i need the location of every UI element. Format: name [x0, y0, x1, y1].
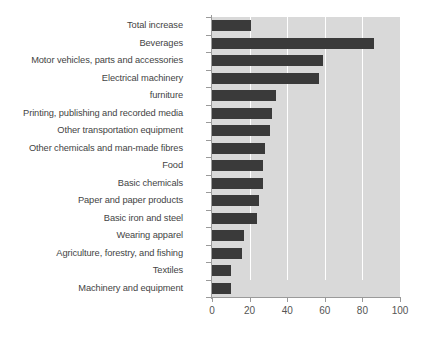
- category-label: Textiles: [153, 262, 183, 280]
- category-label: Machinery and equipment: [78, 280, 183, 298]
- x-tick-label-0: 0: [209, 305, 215, 316]
- gridline-100: [400, 0, 401, 280]
- bar-cell: [212, 122, 400, 140]
- bar-chart: 020406080100 Total increaseBeveragesMoto…: [0, 0, 424, 337]
- bar-cell: [212, 262, 400, 280]
- category-label: Other chemicals and man-made fibres: [29, 140, 183, 158]
- bar-cell: [212, 35, 400, 53]
- bar: [212, 108, 272, 119]
- category-label: Agriculture, forestry, and fishing: [56, 245, 183, 263]
- bar-row: Electrical machinery: [0, 70, 400, 88]
- bar-cell: [212, 227, 400, 245]
- category-label: furniture: [150, 87, 183, 105]
- x-tick-0: [212, 298, 213, 302]
- bar-cell: [212, 70, 400, 88]
- bar-row: Printing, publishing and recorded media: [0, 105, 400, 123]
- bar: [212, 125, 270, 136]
- bar-rows: Total increaseBeveragesMotor vehicles, p…: [0, 17, 400, 297]
- category-label: Motor vehicles, parts and accessories: [31, 52, 183, 70]
- bar-row: furniture: [0, 87, 400, 105]
- bar: [212, 195, 259, 206]
- bar-cell: [212, 175, 400, 193]
- bar-row: Basic iron and steel: [0, 210, 400, 228]
- bar: [212, 20, 251, 31]
- category-label: Basic iron and steel: [104, 210, 183, 228]
- bar-cell: [212, 245, 400, 263]
- x-axis-line: [211, 297, 401, 298]
- bar: [212, 55, 323, 66]
- bar: [212, 265, 231, 276]
- x-tick-label-20: 20: [244, 305, 255, 316]
- bar-row: Food: [0, 157, 400, 175]
- bar-cell: [212, 210, 400, 228]
- category-label: Beverages: [139, 35, 183, 53]
- category-label: Printing, publishing and recorded media: [23, 105, 183, 123]
- bar-cell: [212, 157, 400, 175]
- category-label: Other transportation equipment: [57, 122, 183, 140]
- bar-row: Wearing apparel: [0, 227, 400, 245]
- bar: [212, 178, 263, 189]
- bar: [212, 90, 276, 101]
- bar-cell: [212, 17, 400, 35]
- bar-row: Agriculture, forestry, and fishing: [0, 245, 400, 263]
- x-tick-40: [287, 298, 288, 302]
- category-label: Total increase: [127, 17, 183, 35]
- x-tick-label-60: 60: [319, 305, 330, 316]
- bar-row: Motor vehicles, parts and accessories: [0, 52, 400, 70]
- category-label: Electrical machinery: [102, 70, 183, 88]
- x-tick-label-100: 100: [392, 305, 409, 316]
- y-tick-16: [206, 297, 211, 298]
- bar-cell: [212, 280, 400, 298]
- bar-cell: [212, 105, 400, 123]
- x-tick-80: [362, 298, 363, 302]
- x-tick-100: [400, 298, 401, 302]
- category-label: Paper and paper products: [78, 192, 183, 210]
- bar: [212, 38, 374, 49]
- bar-row: Basic chemicals: [0, 175, 400, 193]
- x-tick-label-80: 80: [357, 305, 368, 316]
- bar: [212, 143, 265, 154]
- category-label: Basic chemicals: [118, 175, 183, 193]
- category-label: Wearing apparel: [116, 227, 183, 245]
- bar-cell: [212, 140, 400, 158]
- bar: [212, 73, 319, 84]
- bar-cell: [212, 52, 400, 70]
- bar: [212, 160, 263, 171]
- bar-row: Total increase: [0, 17, 400, 35]
- bar-cell: [212, 192, 400, 210]
- bar: [212, 283, 231, 294]
- bar-cell: [212, 87, 400, 105]
- bar: [212, 213, 257, 224]
- x-tick-60: [325, 298, 326, 302]
- x-tick-label-40: 40: [282, 305, 293, 316]
- category-label: Food: [162, 157, 183, 175]
- bar: [212, 230, 244, 241]
- bar: [212, 248, 242, 259]
- bar-row: Other transportation equipment: [0, 122, 400, 140]
- bar-row: Beverages: [0, 35, 400, 53]
- bar-row: Other chemicals and man-made fibres: [0, 140, 400, 158]
- bar-row: Paper and paper products: [0, 192, 400, 210]
- bar-row: Textiles: [0, 262, 400, 280]
- x-tick-20: [250, 298, 251, 302]
- bar-row: Machinery and equipment: [0, 280, 400, 298]
